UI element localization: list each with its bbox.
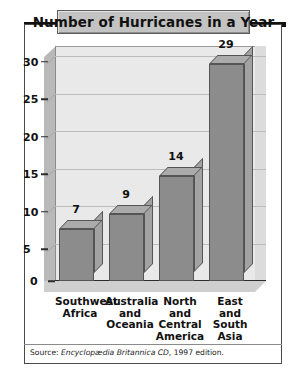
bar-top-face <box>109 205 153 214</box>
bar-column: 14 <box>159 176 194 281</box>
source-suffix: , 1997 edition. <box>169 348 224 357</box>
y-tick-label: 20 <box>23 130 38 143</box>
y-tick-dash <box>48 280 55 282</box>
bar-top-face <box>59 220 103 229</box>
bar-front-face <box>209 64 244 282</box>
bar-value-label: 29 <box>218 38 233 51</box>
x-axis-category-label: AustraliaandOceania <box>105 296 155 331</box>
y-tick-dash <box>41 248 48 250</box>
y-tick-label: 25 <box>23 93 38 106</box>
y-tick-dash <box>41 211 48 213</box>
y-tick-label: 30 <box>23 55 38 68</box>
y-tick-dash <box>41 61 48 63</box>
plot-right-wall <box>255 46 266 282</box>
plot-area: 051015202530 791429 <box>44 46 266 292</box>
x-axis-category-label: SouthwestAfrica <box>55 296 105 319</box>
bar-column: 7 <box>59 229 94 282</box>
chart-title-banner: Number of Hurricanes in a Year <box>57 10 250 34</box>
x-axis-labels: SouthwestAfricaAustraliaandOceaniaNorth … <box>44 296 266 344</box>
bar-side-face <box>244 45 253 272</box>
bar-value-label: 7 <box>72 203 80 216</box>
bar-value-label: 9 <box>122 188 130 201</box>
page-title: Number of Hurricanes in a Year <box>33 14 275 30</box>
source-work: Encyclopædia Britannica CD <box>61 348 169 357</box>
x-axis-category-label: East andSouth Asia <box>205 296 255 342</box>
bar-value-label: 14 <box>168 150 183 163</box>
source-prefix: Source: <box>30 348 61 357</box>
bar-front-face <box>109 214 144 282</box>
bar-column: 9 <box>109 214 144 282</box>
y-tick-dash <box>41 136 48 138</box>
x-axis-category-label: North andCentralAmerica <box>155 296 205 342</box>
hurricanes-bar-chart-figure: Number of Hurricanes in a Year 051015202… <box>0 0 306 376</box>
bar-column: 29 <box>209 64 244 282</box>
y-tick-dash <box>41 173 48 175</box>
bar-front-face <box>159 176 194 281</box>
y-tick-dash <box>41 98 48 100</box>
y-tick-label: 0 <box>30 275 38 288</box>
bar-top-face <box>209 55 253 64</box>
source-note: Source: Encyclopædia Britannica CD, 1997… <box>30 348 276 357</box>
y-tick-label: 5 <box>23 243 31 256</box>
y-tick-label: 10 <box>23 205 38 218</box>
plot-floor <box>44 281 266 292</box>
source-divider <box>24 344 282 345</box>
bar-front-face <box>59 229 94 282</box>
y-tick-label: 15 <box>23 168 38 181</box>
y-axis-line <box>55 46 56 281</box>
